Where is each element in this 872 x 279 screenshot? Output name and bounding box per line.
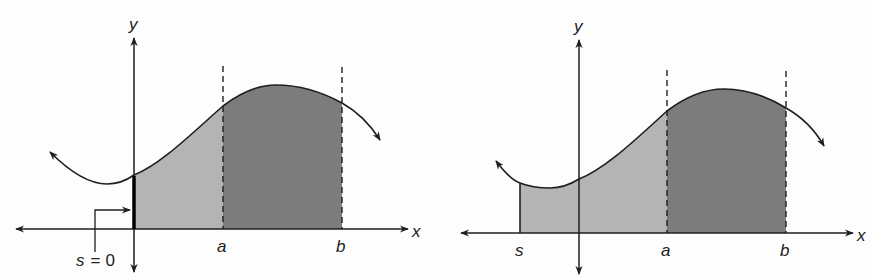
right-panel: y x s a b: [461, 17, 866, 274]
tick-label-b: b: [780, 241, 789, 260]
zero-value: 0: [105, 251, 114, 270]
y-axis-label: y: [573, 17, 584, 36]
tick-label-b: b: [336, 237, 345, 256]
equals-sign: =: [91, 251, 101, 270]
x-axis-label: x: [856, 226, 866, 245]
y-axis-label: y: [128, 15, 139, 34]
left-panel: y x a b s = 0: [16, 15, 421, 272]
dark-region-a-to-b: [667, 89, 786, 233]
s-equals-zero-label: s = 0: [76, 251, 115, 270]
area-function-diagram: y x a b s = 0 y x s a b: [0, 0, 872, 279]
tick-label-a: a: [217, 237, 226, 256]
tick-label-a: a: [661, 241, 670, 260]
s-zero-callout-arrow: [95, 210, 130, 252]
x-axis-label: x: [411, 222, 421, 241]
tick-label-s: s: [515, 241, 524, 260]
s-symbol: s: [76, 251, 85, 270]
dark-region-a-to-b: [223, 85, 342, 229]
